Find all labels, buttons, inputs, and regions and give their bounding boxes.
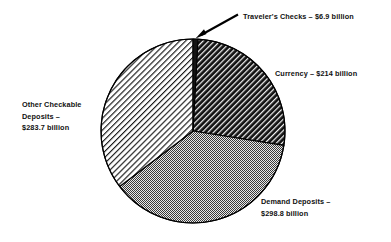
slice-label-currency: Currency – $214 billion [275, 68, 357, 80]
currency-label-text: Currency – $214 billion [275, 68, 357, 80]
travelers-checks-callout-arrow [196, 15, 239, 39]
slice-label-demand-deposits: Demand Deposits – $298.8 billion [261, 196, 330, 219]
slice-label-other-checkable-deposits: Other Checkable Deposits – $283.7 billio… [22, 99, 82, 134]
demand-deposits-label-line2: $298.8 billion [261, 208, 330, 220]
pie-slice-currency [193, 39, 285, 145]
travelers-checks-label-text: Traveler's Checks – $6.9 billion [243, 11, 354, 23]
other-checkable-label-line1: Other Checkable [22, 99, 82, 111]
other-checkable-label-line3: $283.7 billion [22, 122, 82, 134]
pie-chart-figure: Traveler's Checks – $6.9 billion Currenc… [0, 0, 391, 242]
other-checkable-label-line2: Deposits – [22, 111, 82, 123]
demand-deposits-label-line1: Demand Deposits – [261, 196, 330, 208]
slice-label-travelers-checks: Traveler's Checks – $6.9 billion [243, 11, 354, 23]
